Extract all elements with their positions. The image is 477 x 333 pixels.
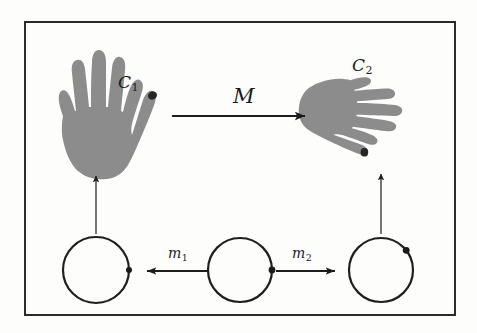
label-C1-base: C	[118, 72, 131, 92]
circle-left	[63, 237, 132, 303]
label-morphism-m1: m1	[168, 246, 188, 262]
label-hand-right-C2: C2	[352, 57, 373, 76]
label-m1-base: m	[168, 245, 181, 261]
label-morphism-m2: m2	[292, 246, 312, 262]
label-C2-subscript: 2	[365, 64, 373, 77]
circle-middle	[208, 238, 275, 302]
circle-right	[349, 238, 413, 302]
diagram-canvas	[0, 0, 477, 333]
left-hand-silhouette	[59, 50, 159, 179]
label-C2-base: C	[352, 55, 365, 75]
label-hand-left-C1: C1	[118, 74, 139, 93]
circle-middle-marker	[269, 267, 276, 274]
right-hand-silhouette	[297, 75, 403, 158]
label-transform-M: M	[233, 86, 255, 107]
label-m1-subscript: 1	[181, 252, 188, 263]
label-C1-subscript: 1	[131, 81, 139, 94]
circle-right-marker	[403, 247, 410, 254]
figure-container: M C1 C2 m1 m2	[0, 0, 477, 333]
label-m2-subscript: 2	[305, 252, 312, 263]
circle-left-marker	[126, 267, 132, 273]
label-m2-base: m	[292, 245, 305, 261]
